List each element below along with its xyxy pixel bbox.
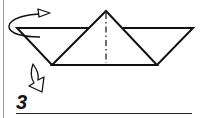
fold-down-arrow-icon (29, 64, 44, 92)
origami-boat-diagram (0, 0, 200, 118)
step-number: 3 (16, 92, 27, 112)
step-underline (16, 113, 192, 114)
